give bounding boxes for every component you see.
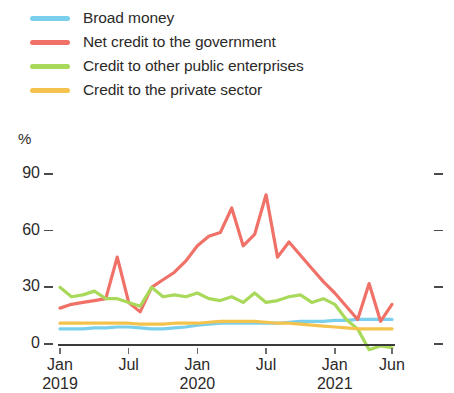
x-axis-tick-month: Jul [256, 356, 276, 373]
y-axis-tick-mark-right [434, 173, 443, 175]
y-axis-tick-mark [44, 286, 53, 288]
chart-legend: Broad money Net credit to the government… [30, 6, 304, 102]
x-axis-tick-label: Jul [231, 355, 301, 374]
series-line [60, 287, 392, 349]
x-axis-tick-label: Jan2019 [25, 355, 95, 393]
x-axis-tick-month: Jul [118, 356, 138, 373]
y-axis-tick-label: 30 [4, 277, 40, 295]
x-axis-line [58, 344, 395, 346]
x-axis-tick-year: 2021 [300, 374, 370, 393]
legend-item-net-credit-government: Net credit to the government [30, 30, 304, 54]
y-axis-tick-mark-right [434, 343, 443, 345]
legend-item-credit-private-sector: Credit to the private sector [30, 78, 304, 102]
legend-label-broad-money: Broad money [83, 10, 174, 26]
x-axis-tick-month: Jun [379, 356, 405, 373]
y-axis-tick-mark [44, 230, 53, 232]
x-axis-tick-mark [59, 348, 61, 354]
x-axis-tick-month: Jan [322, 356, 348, 373]
legend-label-credit-other-public-enterprises: Credit to other public enterprises [83, 58, 304, 74]
legend-swatch-credit-private-sector [30, 88, 70, 93]
legend-swatch-credit-other-public-enterprises [30, 64, 70, 69]
x-axis-tick-mark [391, 348, 393, 354]
chart-container: Broad money Net credit to the government… [0, 0, 454, 393]
x-axis-tick-mark [197, 348, 199, 354]
y-axis-tick-mark [44, 173, 53, 175]
plot-area [58, 160, 394, 350]
legend-label-credit-private-sector: Credit to the private sector [83, 82, 262, 98]
y-axis-tick-mark-right [434, 230, 443, 232]
x-axis-tick-mark [334, 348, 336, 354]
legend-swatch-broad-money [30, 16, 70, 21]
x-axis-tick-label: Jul [94, 355, 164, 374]
y-axis-tick-mark-right [434, 286, 443, 288]
x-axis-tick-label: Jun [357, 355, 427, 374]
y-axis-tick-mark [44, 343, 53, 345]
legend-label-net-credit-government: Net credit to the government [83, 34, 276, 50]
x-axis-tick-year: 2019 [25, 374, 95, 393]
x-axis-tick-label: Jan2020 [162, 355, 232, 393]
x-axis-tick-year: 2020 [162, 374, 232, 393]
y-axis-tick-label: 0 [4, 334, 40, 352]
legend-item-credit-other-public-enterprises: Credit to other public enterprises [30, 54, 304, 78]
x-axis-tick-mark [265, 348, 267, 354]
y-axis-unit-label: % [18, 130, 31, 147]
y-axis-tick-label: 60 [4, 221, 40, 239]
x-axis-tick-month: Jan [47, 356, 73, 373]
legend-item-broad-money: Broad money [30, 6, 304, 30]
x-axis-tick-month: Jan [184, 356, 210, 373]
y-axis-tick-label: 90 [4, 164, 40, 182]
series-lines [58, 160, 394, 350]
legend-swatch-net-credit-government [30, 40, 70, 45]
series-line [60, 195, 392, 322]
x-axis-tick-mark [128, 348, 130, 354]
